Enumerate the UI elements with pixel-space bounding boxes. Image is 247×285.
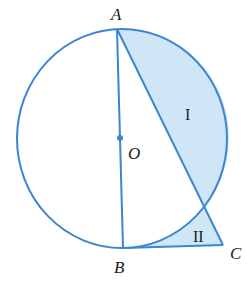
label-c: C [230, 244, 242, 263]
region-i-shading [117, 29, 229, 207]
center-point-o [117, 135, 123, 141]
label-b: B [114, 258, 125, 277]
label-o: O [128, 144, 140, 163]
geometry-diagram: A O B C I II [0, 0, 247, 285]
label-a: A [110, 5, 122, 24]
label-region-ii: II [193, 228, 204, 245]
label-region-i: I [185, 106, 190, 123]
